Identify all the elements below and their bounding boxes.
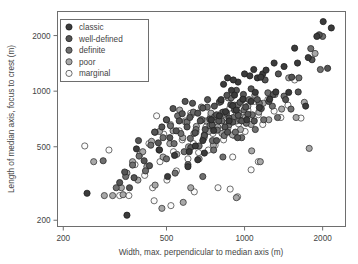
data-point	[222, 109, 228, 115]
legend-marker-icon	[66, 59, 72, 65]
data-point	[251, 118, 257, 124]
data-point	[155, 140, 161, 146]
data-point	[208, 117, 214, 123]
data-point	[220, 81, 226, 87]
data-point	[252, 89, 258, 95]
data-point	[168, 203, 174, 209]
data-point	[195, 157, 201, 163]
data-point	[220, 154, 226, 160]
y-tick-label: 500	[37, 143, 51, 152]
data-point	[233, 195, 239, 201]
data-point	[172, 170, 178, 176]
data-point	[271, 60, 277, 66]
data-point	[156, 147, 162, 153]
y-tick-label: 1000	[32, 87, 51, 96]
legend-item-label: classic	[79, 23, 104, 32]
data-point	[91, 159, 97, 165]
legend-marker-icon	[66, 47, 72, 53]
data-point	[258, 74, 264, 80]
y-tick-label: 2000	[32, 32, 51, 41]
data-point	[279, 106, 285, 112]
data-point	[247, 73, 253, 79]
data-point	[189, 100, 195, 106]
data-point	[218, 97, 224, 103]
legend-marker-icon	[66, 70, 72, 76]
data-point	[211, 103, 217, 109]
data-point	[84, 190, 90, 196]
data-point	[126, 192, 132, 198]
data-point	[303, 103, 309, 109]
data-point	[117, 179, 123, 185]
data-point	[159, 205, 165, 211]
data-point	[100, 158, 106, 164]
data-point	[230, 77, 236, 83]
data-point	[248, 98, 254, 104]
data-point	[133, 146, 139, 152]
data-point	[146, 163, 152, 169]
data-point	[233, 107, 239, 113]
data-point	[186, 149, 192, 155]
data-point	[292, 45, 298, 51]
legend-item-label: poor	[79, 58, 96, 67]
data-point	[129, 162, 135, 168]
data-point	[106, 147, 112, 153]
data-point	[131, 175, 137, 181]
data-point	[314, 33, 320, 39]
data-point	[152, 129, 158, 135]
data-point	[171, 141, 177, 147]
x-axis-ticks: 20050010002000	[56, 227, 332, 243]
data-point	[184, 124, 190, 130]
data-point	[231, 92, 237, 98]
y-axis-ticks: 20050010002000	[32, 32, 57, 226]
data-point	[305, 54, 311, 60]
data-point	[240, 96, 246, 102]
data-point	[275, 71, 281, 77]
data-point	[288, 106, 294, 112]
data-point	[148, 142, 154, 148]
data-point	[196, 149, 202, 155]
data-point	[141, 158, 147, 164]
data-point	[120, 192, 126, 198]
data-point	[197, 118, 203, 124]
data-point	[124, 212, 130, 218]
data-point	[200, 173, 206, 179]
data-point	[192, 143, 198, 149]
data-point	[163, 156, 169, 162]
data-point	[136, 153, 142, 159]
data-point	[176, 118, 182, 124]
data-point	[170, 105, 176, 111]
data-point	[173, 128, 179, 134]
data-point	[142, 168, 148, 174]
data-point	[256, 104, 262, 110]
data-point	[230, 154, 236, 160]
data-point	[110, 192, 116, 198]
data-point	[274, 114, 280, 120]
data-point	[185, 164, 191, 170]
data-point	[200, 137, 206, 143]
legend-item-label: definite	[79, 46, 106, 55]
data-point	[171, 152, 177, 158]
data-point	[325, 65, 331, 71]
y-tick-label: 200	[37, 216, 51, 225]
data-point	[273, 89, 279, 95]
data-point	[296, 75, 302, 81]
legend[interactable]: classicwell-defineddefinitepoormarginal	[61, 20, 149, 82]
data-point	[248, 167, 254, 173]
data-point	[201, 150, 207, 156]
data-point	[244, 117, 250, 123]
data-point	[286, 89, 292, 95]
data-point	[328, 25, 334, 31]
data-point	[202, 126, 208, 132]
legend-marker-icon	[66, 24, 72, 30]
data-point	[152, 182, 158, 188]
plot-canvas: 20050010002000 20050010002000 Width, max…	[0, 0, 358, 264]
data-point	[200, 105, 206, 111]
data-point	[226, 118, 232, 124]
y-axis-label: Length of median axis, focus to crest (m…	[7, 45, 16, 193]
data-point	[179, 111, 185, 117]
data-point	[224, 129, 230, 135]
data-point	[211, 127, 217, 133]
data-point	[289, 74, 295, 80]
data-point	[187, 135, 193, 141]
data-point	[306, 145, 312, 151]
